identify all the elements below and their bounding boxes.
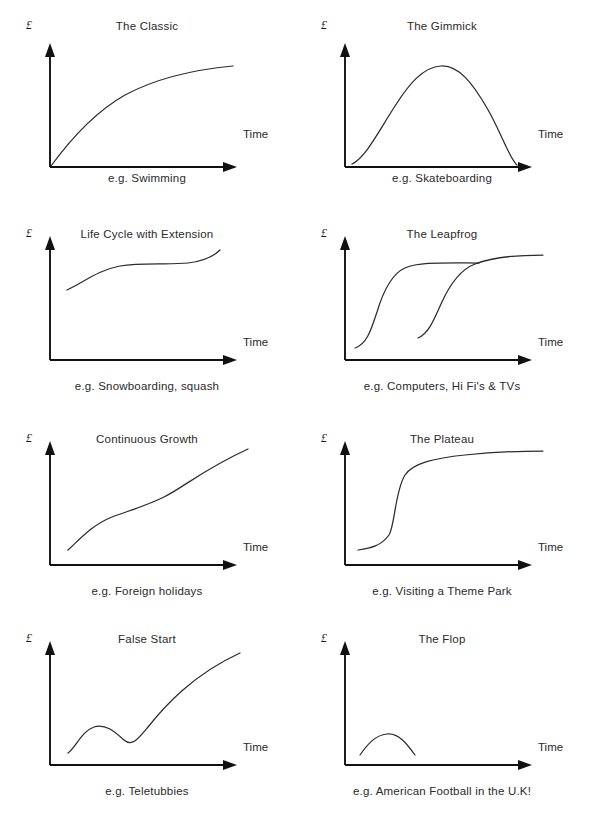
x-axis-arrow-icon xyxy=(223,560,237,570)
y-axis-arrow-icon xyxy=(340,43,350,57)
chart-panel-false-start: False Start £ Time e.g. Teletubbies xyxy=(0,613,294,817)
curve-continuous-growth xyxy=(68,449,248,550)
y-axis-arrow-icon xyxy=(45,641,55,655)
curve-false-start xyxy=(68,653,240,753)
life-cycle-curves-sheet: The Classic £ Time e.g. Swimming The Gim… xyxy=(0,0,589,817)
chart-panel-the-flop: The Flop £ Time e.g. American Football i… xyxy=(295,613,589,817)
chart-panel-the-leapfrog: The Leapfrog £ Time e.g. Computers, Hi F… xyxy=(295,208,589,412)
y-axis-arrow-icon xyxy=(340,641,350,655)
chart-caption: e.g. Foreign holidays xyxy=(0,585,294,597)
y-axis-arrow-icon xyxy=(45,441,55,455)
chart-caption: e.g. Swimming xyxy=(0,172,294,184)
x-axis-arrow-icon xyxy=(223,355,237,365)
chart-caption: e.g. Skateboarding xyxy=(295,172,589,184)
x-axis-arrow-icon xyxy=(518,162,532,172)
curve-classic xyxy=(51,66,233,166)
curve-plateau xyxy=(358,451,543,550)
curve-leapfrog-generation-two xyxy=(418,255,543,338)
y-axis-arrow-icon xyxy=(340,441,350,455)
chart-panel-continuous-growth: Continuous Growth £ Time e.g. Foreign ho… xyxy=(0,413,294,617)
x-axis-arrow-icon xyxy=(518,355,532,365)
y-axis-arrow-icon xyxy=(45,236,55,250)
chart-caption: e.g. Visiting a Theme Park xyxy=(295,585,589,597)
chart-caption: e.g. Teletubbies xyxy=(0,785,294,797)
chart-caption: e.g. Computers, Hi Fi's & TVs xyxy=(295,380,589,392)
x-axis-arrow-icon xyxy=(223,162,237,172)
y-axis-arrow-icon xyxy=(45,43,55,57)
curve-leapfrog-generation-one xyxy=(355,263,479,348)
x-axis-arrow-icon xyxy=(518,760,532,770)
chart-panel-the-plateau: The Plateau £ Time e.g. Visiting a Theme… xyxy=(295,413,589,617)
chart-panel-the-gimmick: The Gimmick £ Time e.g. Skateboarding xyxy=(295,0,589,204)
chart-caption: e.g. Snowboarding, squash xyxy=(0,380,294,392)
curve-flop xyxy=(360,734,415,755)
curve-gimmick xyxy=(352,66,517,165)
y-axis-arrow-icon xyxy=(340,236,350,250)
chart-caption: e.g. American Football in the U.K! xyxy=(295,785,589,797)
chart-panel-the-classic: The Classic £ Time e.g. Swimming xyxy=(0,0,294,204)
curve-life-cycle-extension xyxy=(67,250,220,290)
x-axis-arrow-icon xyxy=(223,760,237,770)
chart-panel-life-cycle-with-extension: Life Cycle with Extension £ Time e.g. Sn… xyxy=(0,208,294,412)
x-axis-arrow-icon xyxy=(518,560,532,570)
